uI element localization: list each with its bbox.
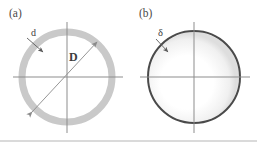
panel-a-diameter-label: D	[69, 50, 78, 64]
panel-a-label: (a)	[9, 7, 22, 20]
panel-a-thickness-label: d	[31, 27, 36, 38]
figure-container: (a) d D (b) δ	[0, 0, 257, 142]
panel-b-label: (b)	[139, 7, 153, 20]
panel-a: (a) d D	[9, 7, 123, 133]
panel-b-thickness-label: δ	[158, 27, 163, 38]
panel-b: (b) δ	[139, 7, 250, 133]
figure-canvas: (a) d D (b) δ	[0, 0, 257, 142]
